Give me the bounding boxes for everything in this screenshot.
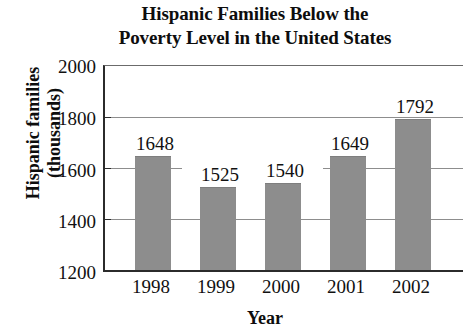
y-tick-label-2000: 2000: [58, 57, 96, 76]
bar-value-2002: 1792: [377, 97, 453, 116]
y-tick-mark-1400: [105, 219, 111, 220]
bar-value-2000: 1540: [247, 161, 323, 180]
y-tick-mark-1600: [105, 168, 111, 169]
chart-title-line-1: Hispanic Families Below the: [60, 2, 450, 26]
bar-2001: [330, 156, 366, 270]
y-axis-title-line-1: Hispanic families: [23, 23, 44, 243]
bar-1999: [200, 187, 236, 270]
plot-area: 1648 1525 1540 1649 1792: [103, 65, 463, 272]
bar-value-1998: 1648: [117, 134, 193, 153]
y-tick-label-1800: 1800: [58, 109, 96, 128]
bar-value-2001: 1649: [312, 134, 388, 153]
y-tick-mark-1800: [105, 117, 111, 118]
chart-title-line-2: Poverty Level in the United States: [60, 26, 450, 50]
bar-2002: [395, 119, 431, 270]
chart-title: Hispanic Families Below the Poverty Leve…: [60, 2, 450, 50]
y-tick-label-1400: 1400: [58, 212, 96, 231]
x-axis-title: Year: [165, 308, 365, 329]
bar-2000: [265, 183, 301, 270]
y-tick-label-1600: 1600: [58, 161, 96, 180]
x-tick-label-2002: 2002: [371, 277, 451, 296]
bar-1998: [135, 156, 171, 270]
y-tick-label-1200: 1200: [58, 263, 96, 282]
gridline-1800: [105, 117, 463, 118]
